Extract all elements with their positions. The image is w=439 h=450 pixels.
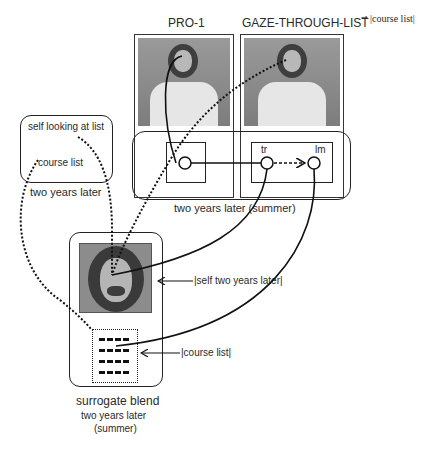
self-looking-dotted xyxy=(78,137,112,275)
node-lm xyxy=(308,157,320,169)
gaze-dotted-line xyxy=(112,60,286,275)
connector-lines xyxy=(0,0,439,450)
pro1-face-connector xyxy=(165,56,182,163)
course-list-dotted xyxy=(21,160,92,330)
lm-to-list-line xyxy=(116,169,314,346)
node-pro1 xyxy=(179,157,191,169)
tr-to-face-line xyxy=(112,169,267,275)
node-tr xyxy=(261,157,273,169)
